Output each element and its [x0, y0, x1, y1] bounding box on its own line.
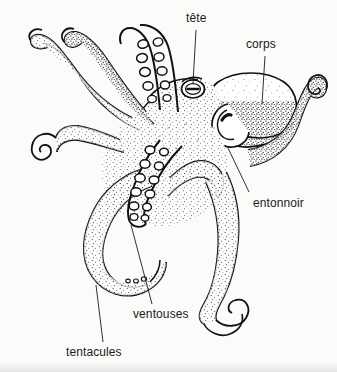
label-tentacules: tentacules	[66, 345, 122, 359]
label-ventouses: ventouses	[133, 307, 189, 321]
octopus-drawing	[29, 25, 327, 335]
label-tete: tête	[186, 11, 206, 25]
leader-line-tentacules	[96, 285, 103, 342]
figure-page: tête corps entonnoir ventouses tentacule…	[0, 0, 337, 372]
leader-line-tete	[193, 30, 196, 83]
label-entonnoir: entonnoir	[253, 196, 304, 210]
label-corps: corps	[246, 37, 276, 51]
